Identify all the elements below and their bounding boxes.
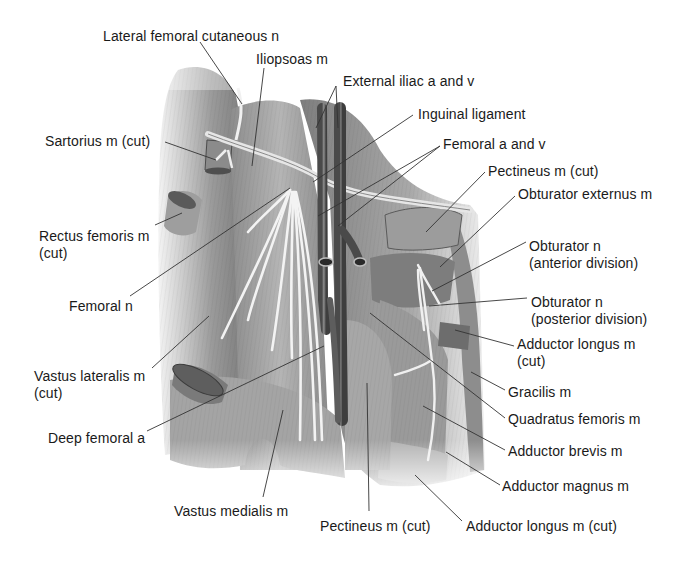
label-line: (posterior division) xyxy=(531,311,647,328)
label-deep-fem-a: Deep femoral a xyxy=(48,430,145,447)
label-sartorius-cut: Sartorius m (cut) xyxy=(45,133,150,150)
label-line: Lateral femoral cutaneous n xyxy=(103,28,279,45)
label-quadratus-fem: Quadratus femoris m xyxy=(508,411,641,428)
label-line: (cut) xyxy=(39,245,150,262)
label-line: Gracilis m xyxy=(508,384,571,401)
label-pectineus-cut-top: Pectineus m (cut) xyxy=(488,163,599,180)
label-rectus-fem-cut: Rectus femoris m(cut) xyxy=(39,228,150,262)
label-line: Femoral a and v xyxy=(443,136,546,153)
label-line: (cut) xyxy=(517,353,635,370)
label-vastus-lat-cut: Vastus lateralis m(cut) xyxy=(34,368,145,402)
label-line: Adductor magnus m xyxy=(502,478,629,495)
femoral-artery xyxy=(322,108,326,330)
label-line: Obturator n xyxy=(531,294,647,311)
label-line: Deep femoral a xyxy=(48,430,145,447)
label-line: Rectus femoris m xyxy=(39,228,150,245)
label-line: Quadratus femoris m xyxy=(508,411,641,428)
label-obt-n-post: Obturator n(posterior division) xyxy=(531,294,647,328)
label-line: Vastus medialis m xyxy=(174,503,288,520)
label-line: Adductor longus m (cut) xyxy=(466,518,617,535)
label-add-longus-cut-mid: Adductor longus m(cut) xyxy=(517,336,635,370)
label-femoral-av: Femoral a and v xyxy=(443,136,546,153)
label-line: Femoral n xyxy=(69,298,133,315)
pectineus-cut-upper xyxy=(385,208,462,251)
label-line: Inguinal ligament xyxy=(418,106,526,123)
label-line: External iliac a and v xyxy=(343,73,474,90)
label-line: Adductor longus m xyxy=(517,336,635,353)
label-vastus-med: Vastus medialis m xyxy=(174,503,288,520)
label-add-magnus: Adductor magnus m xyxy=(502,478,629,495)
label-obt-ext: Obturator externus m xyxy=(518,186,652,203)
label-femoral-n: Femoral n xyxy=(69,298,133,315)
label-line: Obturator n xyxy=(529,238,638,255)
label-line: Iliopsoas m xyxy=(256,51,328,68)
label-add-brevis: Adductor brevis m xyxy=(508,443,623,460)
label-line: Sartorius m (cut) xyxy=(45,133,150,150)
label-line: (cut) xyxy=(34,385,145,402)
label-iliopsoas: Iliopsoas m xyxy=(256,51,328,68)
label-add-longus-cut-bottom: Adductor longus m (cut) xyxy=(466,518,617,535)
label-obt-n-ant: Obturator n(anterior division) xyxy=(529,238,638,272)
anatomy-figure: Lateral femoral cutaneous nIliopsoas mEx… xyxy=(0,0,696,568)
label-line: Pectineus m (cut) xyxy=(488,163,599,180)
label-ext-iliac: External iliac a and v xyxy=(343,73,474,90)
label-inguinal-lig: Inguinal ligament xyxy=(418,106,526,123)
label-line: Vastus lateralis m xyxy=(34,368,145,385)
adductor-longus-cut-mid xyxy=(438,322,470,350)
obturator-externus xyxy=(370,253,455,307)
label-line: Obturator externus m xyxy=(518,186,652,203)
label-gracilis: Gracilis m xyxy=(508,384,571,401)
femoral-vein xyxy=(340,108,342,420)
label-line: Pectineus m (cut) xyxy=(320,518,431,535)
label-line: (anterior division) xyxy=(529,255,638,272)
label-line: Adductor brevis m xyxy=(508,443,623,460)
label-pectineus-cut-bottom: Pectineus m (cut) xyxy=(320,518,431,535)
label-lat-fem-cut-n: Lateral femoral cutaneous n xyxy=(103,28,279,45)
